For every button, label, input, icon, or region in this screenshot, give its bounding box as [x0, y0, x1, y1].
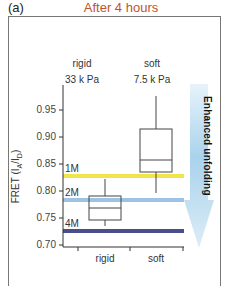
reference-label-1m: 1M	[65, 163, 79, 174]
boxplot-soft	[140, 96, 172, 193]
y-ticks	[59, 110, 63, 245]
boxplot-rigid	[89, 179, 121, 226]
x-ticks	[78, 247, 183, 251]
reference-line-4m	[63, 229, 184, 233]
x-label-rigid: rigid	[85, 253, 125, 264]
reference-line-2m	[63, 198, 184, 202]
x-label-soft: soft	[136, 253, 176, 264]
reference-label-4m: 4M	[65, 218, 79, 229]
reference-label-2m: 2M	[65, 187, 79, 198]
reference-line-1m	[63, 174, 184, 178]
arrow-annotation: Enhanced unfolding	[185, 96, 213, 196]
